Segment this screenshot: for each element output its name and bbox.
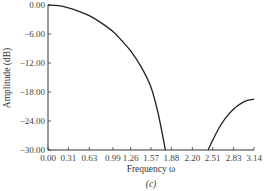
x-tick-label: 0.31 xyxy=(60,153,76,163)
x-tick-label: 1.26 xyxy=(123,153,139,163)
x-tick-label: 0.63 xyxy=(81,153,97,163)
y-tick-label: 0.00 xyxy=(29,0,45,10)
x-axis-label: Frequency ω xyxy=(127,164,176,174)
x-tick-label: 3.14 xyxy=(246,153,262,163)
x-tick-label: 2.51 xyxy=(205,153,221,163)
x-axis-ticks: 0.000.310.630.991.261.571.882.202.512.83… xyxy=(40,147,262,163)
x-tick-label: 2.83 xyxy=(226,153,242,163)
y-axis-ticks: 0.00−6.00−12.00−18.00−24.00−30.00 xyxy=(20,0,51,155)
x-tick-label: 1.57 xyxy=(143,153,159,163)
x-tick-label: 0.99 xyxy=(105,153,121,163)
amplitude-curve xyxy=(208,99,254,150)
y-tick-label: −12.00 xyxy=(20,58,46,68)
x-tick-label: 0.00 xyxy=(40,153,56,163)
y-tick-label: −24.00 xyxy=(20,116,46,126)
y-tick-label: −18.00 xyxy=(20,87,46,97)
x-tick-label: 2.20 xyxy=(184,153,200,163)
amplitude-curve xyxy=(48,5,165,150)
amplitude-response-chart: 0.00−6.00−12.00−18.00−24.00−30.00 0.000.… xyxy=(0,0,264,191)
y-axis-label: Amplitude (dB) xyxy=(2,48,13,108)
x-tick-label: 1.88 xyxy=(163,153,179,163)
data-series xyxy=(48,5,254,150)
figure-caption: (c) xyxy=(146,179,157,190)
y-tick-label: −6.00 xyxy=(24,29,45,39)
